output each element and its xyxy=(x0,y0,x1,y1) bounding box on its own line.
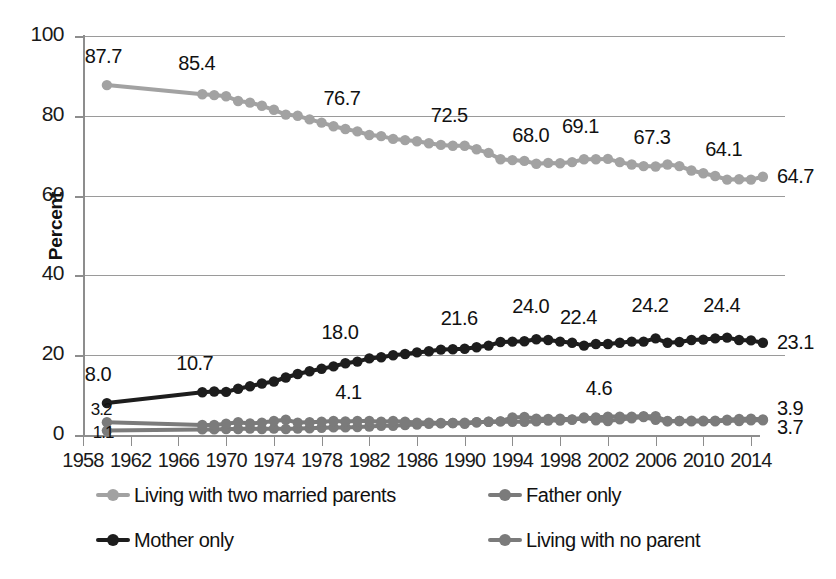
data-label: 64.1 xyxy=(705,138,742,161)
legend-label: Living with no parent xyxy=(526,529,700,552)
legend-label: Living with two married parents xyxy=(134,484,396,507)
x-axis-tickmark xyxy=(369,437,370,446)
data-label: 69.1 xyxy=(562,115,599,138)
x-axis-tickmark xyxy=(131,437,132,446)
legend-label: Father only xyxy=(526,484,621,507)
y-axis-tickmark xyxy=(75,196,83,198)
data-label: 4.1 xyxy=(335,381,361,404)
data-label: 72.5 xyxy=(431,104,468,127)
data-label: 24.4 xyxy=(703,294,740,317)
y-axis-tickmark xyxy=(75,435,83,437)
chart-legend: Living with two married parentsFather on… xyxy=(96,480,796,565)
gridline xyxy=(83,196,785,197)
data-label: 23.1 xyxy=(777,331,814,354)
data-label: 85.4 xyxy=(178,52,215,75)
x-axis-tickmark xyxy=(560,437,561,446)
x-axis-line xyxy=(83,435,760,437)
legend-item-2[interactable]: Mother only xyxy=(96,525,234,555)
data-label: 10.7 xyxy=(176,352,213,375)
legend-swatch-icon xyxy=(488,533,522,547)
legend-item-1[interactable]: Father only xyxy=(488,480,621,510)
legend-item-0[interactable]: Living with two married parents xyxy=(96,480,396,510)
legend-item-3[interactable]: Living with no parent xyxy=(488,525,700,555)
x-axis-tickmark xyxy=(465,437,466,446)
legend-swatch-icon xyxy=(96,488,130,502)
data-label: 1.1 xyxy=(93,423,114,443)
y-axis-tick-label: 0 xyxy=(16,421,64,445)
data-label: 3.2 xyxy=(91,400,112,420)
x-axis-tickmark xyxy=(703,437,704,446)
x-axis-tickmark xyxy=(608,437,609,446)
data-label: 22.4 xyxy=(560,306,597,329)
y-axis-tickmark xyxy=(75,36,83,38)
gridline xyxy=(83,36,785,37)
y-axis-tickmark xyxy=(75,116,83,118)
x-axis-tickmark xyxy=(178,437,179,446)
x-axis-tickmark xyxy=(512,437,513,446)
x-axis-tickmark xyxy=(274,437,275,446)
x-axis-tickmark xyxy=(751,437,752,446)
data-label: 67.3 xyxy=(634,126,671,149)
x-axis-tickmark xyxy=(417,437,418,446)
y-axis-tick-label: 20 xyxy=(16,341,64,365)
x-axis-tickmark xyxy=(226,437,227,446)
data-label: 76.7 xyxy=(323,87,360,110)
y-axis-tickmark xyxy=(75,275,83,277)
data-label: 68.0 xyxy=(512,124,549,147)
legend-swatch-icon xyxy=(488,488,522,502)
x-axis-tick-label: 2014 xyxy=(721,449,781,472)
gridline xyxy=(83,275,785,276)
data-label: 64.7 xyxy=(777,165,814,188)
data-label: 24.2 xyxy=(632,294,669,317)
y-axis-tick-label: 60 xyxy=(16,182,64,206)
data-label: 18.0 xyxy=(321,321,358,344)
legend-swatch-icon xyxy=(96,533,130,547)
y-axis-tickmark xyxy=(75,355,83,357)
data-label: 4.6 xyxy=(586,377,612,400)
data-label: 8.0 xyxy=(85,363,111,386)
data-label: 24.0 xyxy=(512,295,549,318)
data-label: 3.7 xyxy=(777,416,803,439)
y-axis-tick-label: 80 xyxy=(16,102,64,126)
data-label: 21.6 xyxy=(441,307,478,330)
data-label: 87.7 xyxy=(85,45,122,68)
y-axis-tick-label: 40 xyxy=(16,261,64,285)
line-chart: Percent 020406080100 1958196219661970197… xyxy=(0,0,836,579)
x-axis-tickmark xyxy=(322,437,323,446)
y-axis-tick-label: 100 xyxy=(16,22,64,46)
x-axis-tickmark xyxy=(83,437,84,446)
legend-label: Mother only xyxy=(134,529,234,552)
x-axis-tickmark xyxy=(656,437,657,446)
